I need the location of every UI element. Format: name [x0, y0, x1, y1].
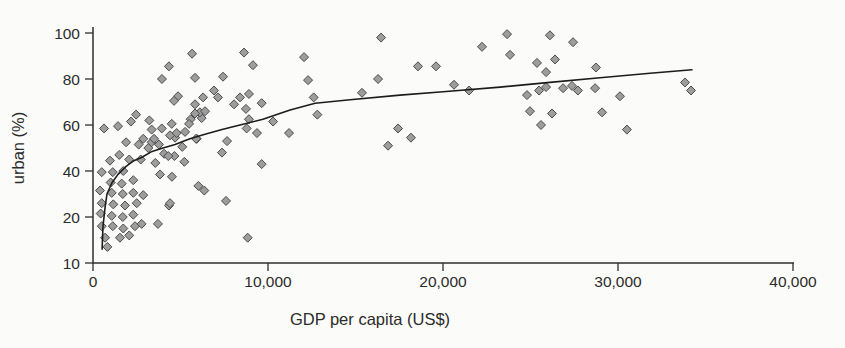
- data-point: [118, 190, 127, 199]
- data-point: [525, 107, 534, 116]
- data-point: [450, 80, 459, 89]
- data-point: [126, 117, 135, 126]
- data-point: [121, 201, 130, 210]
- data-point: [545, 31, 554, 40]
- data-point: [108, 168, 117, 177]
- x-axis-title: GDP per capita (US$): [290, 310, 450, 328]
- data-point: [105, 156, 114, 165]
- trend-curve-path: [102, 70, 692, 249]
- data-point: [157, 124, 166, 133]
- data-point: [559, 84, 568, 93]
- x-tick-label: 30,000: [594, 273, 642, 290]
- x-tick-label: 40,000: [769, 273, 817, 290]
- data-point: [199, 93, 208, 102]
- data-point: [257, 160, 266, 169]
- y-tick-label: 40: [63, 163, 81, 180]
- y-tick-label: 60: [63, 117, 81, 134]
- data-point: [103, 242, 112, 251]
- data-point: [122, 138, 131, 147]
- data-point: [97, 222, 106, 231]
- data-point: [132, 110, 141, 119]
- data-point: [542, 68, 551, 77]
- data-point: [257, 99, 266, 108]
- data-point: [96, 186, 105, 195]
- data-point: [252, 129, 261, 138]
- data-point: [119, 224, 128, 233]
- data-point: [240, 48, 249, 57]
- data-point: [243, 233, 252, 242]
- data-point: [478, 42, 487, 51]
- data-point: [167, 119, 176, 128]
- data-point: [506, 50, 515, 59]
- data-point: [686, 86, 695, 95]
- data-point: [591, 63, 600, 72]
- scatter-figure: 010,00020,00030,00040,0001020406080100 u…: [0, 0, 845, 348]
- data-point: [167, 172, 176, 181]
- data-point: [181, 127, 190, 136]
- data-point: [118, 213, 127, 222]
- data-point: [129, 176, 138, 185]
- data-point: [681, 78, 690, 87]
- data-point: [523, 91, 532, 100]
- data-point: [394, 124, 403, 133]
- data-point: [100, 124, 109, 133]
- data-point: [503, 30, 512, 39]
- data-point: [269, 117, 278, 126]
- data-point: [115, 233, 124, 242]
- axis-lines: [93, 27, 794, 263]
- data-point: [125, 231, 134, 240]
- data-point: [117, 179, 126, 188]
- data-point: [219, 72, 228, 81]
- data-point: [569, 38, 578, 47]
- data-point: [191, 100, 200, 109]
- data-point: [180, 157, 189, 166]
- x-tick-label: 10,000: [244, 273, 292, 290]
- data-point: [309, 93, 318, 102]
- y-axis-title: urban (%): [9, 112, 27, 184]
- data-point: [156, 170, 165, 179]
- data-point: [241, 104, 250, 113]
- x-tick-label: 0: [89, 273, 98, 290]
- data-point: [151, 158, 160, 167]
- data-point: [188, 49, 197, 58]
- data-point: [591, 84, 600, 93]
- data-point: [222, 196, 231, 205]
- data-point: [615, 92, 624, 101]
- data-point: [532, 58, 541, 67]
- data-point: [97, 168, 106, 177]
- data-point: [115, 150, 124, 159]
- data-point: [139, 191, 148, 200]
- y-tick-label: 100: [54, 25, 80, 42]
- data-point: [119, 167, 128, 176]
- data-point: [242, 124, 251, 133]
- data-point: [114, 122, 123, 131]
- data-point: [108, 222, 117, 231]
- data-point: [109, 200, 118, 209]
- scatter-plot: 010,00020,00030,00040,0001020406080100 u…: [0, 0, 845, 348]
- data-point: [132, 199, 141, 208]
- data-point: [129, 188, 138, 197]
- data-point: [191, 73, 200, 82]
- data-point: [551, 55, 560, 64]
- data-point: [384, 141, 393, 150]
- axes: [93, 27, 794, 263]
- data-point: [147, 125, 156, 134]
- data-point: [406, 133, 415, 142]
- data-point: [244, 89, 253, 98]
- data-point: [248, 61, 257, 70]
- y-tick-label: 20: [63, 209, 81, 226]
- trend-curve: [102, 70, 692, 249]
- data-point: [413, 62, 422, 71]
- data-point: [129, 210, 138, 219]
- data-point: [164, 62, 173, 71]
- data-point: [313, 110, 322, 119]
- data-point: [230, 100, 239, 109]
- data-point: [357, 88, 366, 97]
- data-point: [374, 75, 383, 84]
- data-point: [236, 93, 245, 102]
- data-point: [598, 108, 607, 117]
- data-point: [537, 121, 546, 130]
- data-point: [377, 33, 386, 42]
- x-tick-label: 20,000: [419, 273, 467, 290]
- data-point: [300, 53, 309, 62]
